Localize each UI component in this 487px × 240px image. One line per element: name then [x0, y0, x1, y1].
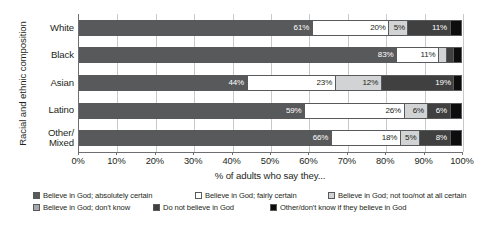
legend-swatch-icon: [328, 192, 335, 199]
legend-label: Believe in God; don't know: [43, 203, 130, 212]
x-axis-tick: [116, 152, 117, 155]
bar-segment: 6%: [405, 103, 428, 119]
x-axis-tick: [347, 152, 348, 155]
stacked-bar-chart: Racial and ethnic composition WhiteBlack…: [0, 0, 487, 240]
legend-swatch-icon: [33, 192, 40, 199]
bar-segment: 20%: [313, 20, 390, 36]
bar-segment-value-label: 5%: [405, 134, 419, 142]
x-axis-tick: [424, 152, 425, 155]
bar-segment-value-label: 6%: [436, 107, 450, 115]
gridline: [463, 14, 464, 152]
bar-row: 83%11%: [79, 47, 462, 63]
x-axis-tick: [270, 152, 271, 155]
bar-segment: 8%: [420, 130, 451, 146]
category-label-asian: Asian: [24, 78, 74, 89]
bar-segment: 18%: [332, 130, 401, 146]
bar-segment-value-label: 6%: [413, 107, 427, 115]
legend-item[interactable]: Believe in God; absolutely certain: [33, 191, 152, 200]
bar-segment: 11%: [397, 47, 439, 63]
bar-segment: 59%: [79, 103, 305, 119]
bar-segment: [451, 103, 462, 119]
bar-segment: [447, 47, 455, 63]
legend-label: Believe in God; not too/not at all certa…: [338, 191, 466, 200]
bar-segment: 5%: [401, 130, 420, 146]
legend-label: Do not believe in God: [163, 203, 234, 212]
bar-segment-value-label: 61%: [294, 24, 312, 32]
bar-segment-value-label: 11%: [432, 24, 449, 32]
bar-segment: 11%: [408, 20, 450, 36]
bar-segment-value-label: 44%: [228, 79, 246, 87]
bar-segment: 66%: [79, 130, 332, 146]
bar-segment: [451, 20, 462, 36]
x-axis-tick: [193, 152, 194, 155]
bar-segment-value-label: 26%: [386, 107, 404, 115]
bar-segment-value-label: 20%: [370, 24, 388, 32]
bar-segment: 23%: [248, 75, 336, 91]
category-label-latino: Latino: [24, 105, 74, 116]
chart-legend: Believe in God; absolutely certainBeliev…: [33, 191, 473, 217]
category-label-line: Latino: [24, 105, 74, 116]
legend-label: Believe in God; absolutely certain: [43, 191, 152, 200]
bar-segment-value-label: 19%: [435, 79, 453, 87]
legend-item[interactable]: Other/don't know if they believe in God: [270, 203, 406, 212]
bar-segment: 83%: [79, 47, 397, 63]
bar-row: 66%18%5%8%: [79, 130, 462, 146]
legend-label: Believe in God; fairly certain: [205, 191, 297, 200]
category-label-other-mixed: Other/Mixed: [24, 128, 74, 149]
category-label-line: Asian: [24, 78, 74, 89]
x-axis-title: % of adults who say they...: [78, 170, 462, 181]
bar-segment: 5%: [389, 20, 408, 36]
bar-segment: 44%: [79, 75, 248, 91]
bar-segment-value-label: 59%: [286, 107, 304, 115]
category-label-black: Black: [24, 50, 74, 61]
bar-segment-value-label: 5%: [394, 24, 408, 32]
legend-swatch-icon: [195, 192, 202, 199]
bar-segment: [454, 75, 462, 91]
legend-item[interactable]: Believe in God; fairly certain: [195, 191, 297, 200]
bar-segment-value-label: 18%: [382, 134, 400, 142]
bar-segment-value-label: 83%: [378, 51, 396, 59]
bar-segment: 61%: [79, 20, 313, 36]
legend-swatch-icon: [270, 204, 277, 211]
bar-segment-value-label: 11%: [421, 51, 438, 59]
x-axis-tick: [155, 152, 156, 155]
x-axis-tick: [385, 152, 386, 155]
legend-item[interactable]: Believe in God; don't know: [33, 203, 130, 212]
bar-segment-value-label: 66%: [313, 134, 331, 142]
bar-segment: [451, 130, 462, 146]
x-axis-tick-labels: 0%10%20%30%40%50%60%70%80%90%100%: [0, 156, 487, 170]
bar-segment: 19%: [382, 75, 455, 91]
legend-label: Other/don't know if they believe in God: [280, 203, 406, 212]
bar-row: 44%23%12%19%: [79, 75, 462, 91]
bar-segment-value-label: 8%: [436, 134, 450, 142]
bar-segment-value-label: 23%: [317, 79, 335, 87]
bar-segment: [454, 47, 462, 63]
category-axis-labels: WhiteBlackAsianLatinoOther/Mixed: [24, 14, 74, 152]
bar-segment: 6%: [428, 103, 451, 119]
bar-row: 59%26%6%6%: [79, 103, 462, 119]
plot-area: 61%20%5%11%83%11%44%23%12%19%59%26%6%6%6…: [78, 14, 462, 152]
category-label-line: Black: [24, 50, 74, 61]
bar-segment: 26%: [305, 103, 405, 119]
category-label-line: Mixed: [24, 138, 74, 149]
legend-swatch-icon: [153, 204, 160, 211]
x-axis-tick: [462, 152, 463, 155]
x-axis-tick: [308, 152, 309, 155]
bar-segment-value-label: 12%: [363, 79, 381, 87]
category-label-line: White: [24, 23, 74, 34]
x-axis-tick-label: 100%: [439, 156, 485, 166]
x-axis-tick: [232, 152, 233, 155]
legend-swatch-icon: [33, 204, 40, 211]
bar-row: 61%20%5%11%: [79, 20, 462, 36]
bar-segment: 12%: [336, 75, 382, 91]
bar-segment: [439, 47, 447, 63]
legend-item[interactable]: Believe in God; not too/not at all certa…: [328, 191, 466, 200]
x-axis-tick: [78, 152, 79, 155]
legend-item[interactable]: Do not believe in God: [153, 203, 234, 212]
category-label-white: White: [24, 23, 74, 34]
